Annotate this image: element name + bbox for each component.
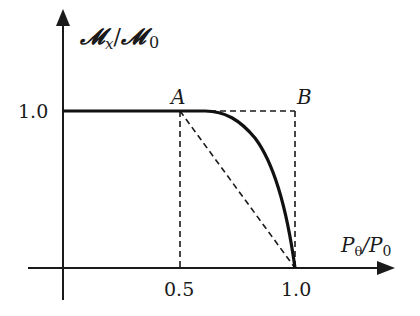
chart-canvas: 1.0 0.5 1.0 A B 𝓜x/𝓜0 Pθ/P0 bbox=[0, 0, 420, 316]
x-axis-label: Pθ/P0 bbox=[340, 233, 391, 259]
interaction-curve bbox=[63, 111, 295, 268]
y-axis-label: 𝓜x/𝓜0 bbox=[79, 23, 159, 53]
y-axis-arrow-icon bbox=[56, 9, 70, 26]
tick-x-05: 0.5 bbox=[164, 278, 194, 300]
tick-y-1: 1.0 bbox=[18, 100, 48, 122]
x-axis-arrow-icon bbox=[377, 261, 395, 275]
point-b-label: B bbox=[296, 85, 312, 109]
x-label-sub-theta: θ bbox=[354, 244, 362, 259]
y-label-sub-0: 0 bbox=[149, 33, 159, 52]
tick-x-10: 1.0 bbox=[281, 278, 311, 300]
point-a-label: A bbox=[169, 85, 185, 109]
x-label-P: P bbox=[340, 233, 355, 257]
x-label-slash-P: /P bbox=[360, 233, 383, 257]
x-label-sub-0: 0 bbox=[383, 243, 392, 259]
